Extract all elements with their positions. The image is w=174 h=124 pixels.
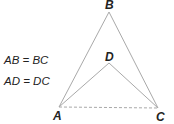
segment-ac-dashed	[59, 107, 158, 108]
given-ab-equals-bc: AB = BC	[4, 54, 48, 66]
segment-bc	[109, 12, 158, 108]
segment-ab	[59, 12, 109, 107]
point-label-a: A	[52, 109, 62, 123]
point-label-b: B	[105, 0, 114, 12]
segment-ad	[59, 63, 109, 107]
given-ad-equals-dc: AD = DC	[4, 75, 50, 87]
segment-dc	[109, 63, 158, 108]
point-label-c: C	[156, 110, 165, 124]
point-label-d: D	[105, 50, 114, 64]
